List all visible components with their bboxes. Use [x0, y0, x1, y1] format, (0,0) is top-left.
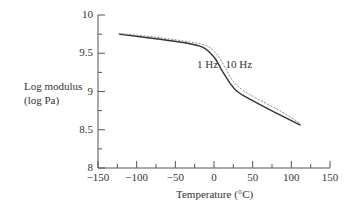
x-axis-label: Temperature (°C) — [176, 188, 253, 201]
x-tick-label: −50 — [161, 171, 189, 184]
x-tick-label: 150 — [316, 171, 344, 184]
axes — [98, 15, 330, 168]
series-annotation: 1 Hz — [197, 58, 218, 71]
y-tick-label: 9.5 — [79, 46, 93, 59]
y-axis-label-line1: Log modulus — [24, 80, 82, 93]
x-tick-label: −100 — [123, 171, 151, 184]
y-axis-label-line2: (log Pa) — [24, 94, 59, 107]
y-tick-label: 8.5 — [79, 123, 93, 136]
y-tick-label: 9 — [88, 85, 94, 98]
data-curves — [119, 33, 301, 125]
series-annotation: 10 Hz — [226, 58, 253, 71]
x-tick-label: −150 — [84, 171, 112, 184]
x-tick-label: 50 — [239, 171, 267, 184]
y-tick-label: 10 — [82, 8, 93, 21]
series-10-hz — [119, 33, 301, 123]
x-tick-label: 100 — [277, 171, 305, 184]
x-tick-label: 0 — [200, 171, 228, 184]
